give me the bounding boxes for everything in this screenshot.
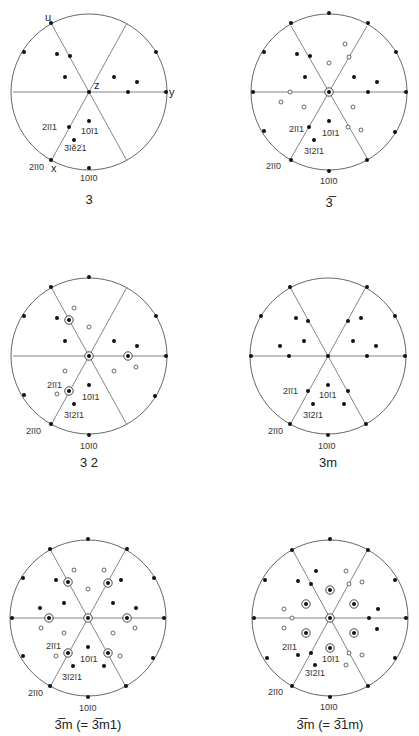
pole-upper-hemisphere bbox=[328, 537, 332, 541]
pole-upper-hemisphere bbox=[63, 75, 67, 79]
pole-upper-hemisphere bbox=[403, 354, 407, 358]
pole-label: 2īī1 bbox=[283, 386, 298, 396]
pole-upper-hemisphere bbox=[259, 314, 263, 318]
pole-upper-hemisphere bbox=[111, 601, 115, 605]
pole-upper-hemisphere bbox=[265, 656, 269, 660]
pole-lower-hemisphere bbox=[102, 568, 106, 572]
pole-lower-hemisphere bbox=[344, 569, 348, 573]
pole-upper-hemisphere bbox=[375, 80, 379, 84]
pole-upper-hemisphere bbox=[21, 654, 25, 658]
stereogram-p3: uzyx2īī110ī13īĕ2̇​12īī010ī0 bbox=[11, 11, 175, 183]
pole-lower-hemisphere bbox=[133, 626, 137, 630]
pole-lower-hemisphere bbox=[288, 90, 292, 94]
pole-label: y bbox=[169, 86, 175, 98]
pole-upper-hemisphere bbox=[304, 631, 308, 635]
pole-label: u bbox=[45, 11, 51, 23]
pole-upper-hemisphere bbox=[307, 125, 311, 129]
pole-upper-hemisphere bbox=[22, 314, 26, 318]
pole-upper-hemisphere bbox=[365, 158, 369, 162]
stereogram-p32: 2īī110ī13ī2ī12īī010ī0 bbox=[11, 275, 168, 451]
pole-upper-hemisphere bbox=[86, 645, 90, 649]
pole-lower-hemisphere bbox=[343, 42, 347, 46]
pole-lower-hemisphere bbox=[327, 61, 331, 65]
panel-caption-3bar1m: 3̅m (= 3̅1m) bbox=[297, 717, 364, 732]
pole-upper-hemisphere bbox=[49, 285, 53, 289]
pole-upper-hemisphere bbox=[376, 607, 380, 611]
pole-upper-hemisphere bbox=[54, 578, 58, 582]
pole-upper-hemisphere bbox=[287, 354, 291, 358]
pole-upper-hemisphere bbox=[364, 422, 368, 426]
pole-upper-hemisphere bbox=[289, 158, 293, 162]
pole-upper-hemisphere bbox=[162, 616, 166, 620]
pole-label: 10ī0 bbox=[79, 703, 97, 713]
pole-upper-hemisphere bbox=[288, 285, 292, 289]
pole-upper-hemisphere bbox=[152, 576, 156, 580]
pole-label: 10ī0 bbox=[320, 176, 338, 186]
pole-upper-hemisphere bbox=[125, 547, 129, 551]
pole-upper-hemisphere bbox=[263, 578, 267, 582]
pole-upper-hemisphere bbox=[251, 90, 255, 94]
pole-upper-hemisphere bbox=[352, 631, 356, 635]
pole-lower-hemisphere bbox=[282, 607, 286, 611]
pole-upper-hemisphere bbox=[87, 383, 91, 387]
pole-upper-hemisphere bbox=[366, 21, 370, 25]
pole-lower-hemisphere bbox=[134, 365, 138, 369]
pole-upper-hemisphere bbox=[346, 389, 350, 393]
pole-upper-hemisphere bbox=[86, 616, 90, 620]
pole-upper-hemisphere bbox=[87, 90, 91, 94]
pole-label: 2īī0 bbox=[268, 687, 283, 697]
pole-upper-hemisphere bbox=[306, 319, 310, 323]
pole-upper-hemisphere bbox=[63, 339, 67, 343]
panel-caption-3: 3 bbox=[85, 192, 92, 207]
pole-upper-hemisphere bbox=[48, 684, 52, 688]
pole-lower-hemisphere bbox=[360, 653, 364, 657]
pole-upper-hemisphere bbox=[87, 433, 91, 437]
pole-upper-hemisphere bbox=[366, 684, 370, 688]
pole-upper-hemisphere bbox=[359, 316, 363, 320]
pole-label: 10ī0 bbox=[80, 441, 98, 451]
pole-upper-hemisphere bbox=[296, 653, 300, 657]
pole-upper-hemisphere bbox=[313, 663, 317, 667]
pole-label: 10ī1 bbox=[81, 126, 99, 136]
pole-label: 10ī1 bbox=[82, 392, 100, 402]
pole-upper-hemisphere bbox=[312, 138, 316, 142]
pole-upper-hemisphere bbox=[393, 130, 397, 134]
pole-lower-hemisphere bbox=[359, 128, 363, 132]
pole-upper-hemisphere bbox=[327, 11, 331, 15]
pole-upper-hemisphere bbox=[327, 90, 331, 94]
pole-upper-hemisphere bbox=[367, 616, 371, 620]
pole-upper-hemisphere bbox=[393, 656, 397, 660]
pole-label: 10ī0 bbox=[318, 441, 336, 451]
pole-upper-hemisphere bbox=[106, 581, 110, 585]
pole-upper-hemisphere bbox=[86, 695, 90, 699]
pole-upper-hemisphere bbox=[164, 90, 168, 94]
pole-upper-hemisphere bbox=[38, 606, 42, 610]
pole-upper-hemisphere bbox=[366, 548, 370, 552]
pole-upper-hemisphere bbox=[311, 402, 315, 406]
pole-upper-hemisphere bbox=[393, 314, 397, 318]
pole-upper-hemisphere bbox=[67, 318, 71, 322]
pole-upper-hemisphere bbox=[153, 394, 157, 398]
pole-upper-hemisphere bbox=[394, 50, 398, 54]
pole-label: 2īī1 bbox=[46, 641, 61, 651]
pole-label: 10ī0 bbox=[320, 702, 338, 712]
pole-lower-hemisphere bbox=[72, 568, 76, 572]
panel-caption-3bar: 3̅ bbox=[325, 195, 336, 210]
pole-upper-hemisphere bbox=[278, 344, 282, 348]
pole-upper-hemisphere bbox=[66, 651, 70, 655]
pole-upper-hemisphere bbox=[86, 537, 90, 541]
pole-upper-hemisphere bbox=[10, 616, 14, 620]
pole-upper-hemisphere bbox=[303, 75, 307, 79]
pole-upper-hemisphere bbox=[326, 354, 330, 358]
panel-caption-32: 3 2 bbox=[80, 455, 98, 470]
pole-upper-hemisphere bbox=[327, 119, 331, 123]
stereographic-projections-figure: 3 3̅ 3 2 3m 3̅m (= 3̅m1) 3̅m (= 3̅1m) uz… bbox=[0, 0, 419, 736]
pole-upper-hemisphere bbox=[346, 319, 350, 323]
pole-upper-hemisphere bbox=[164, 354, 168, 358]
pole-lower-hemisphere bbox=[351, 105, 355, 109]
pole-lower-hemisphere bbox=[346, 125, 350, 129]
pole-upper-hemisphere bbox=[309, 651, 313, 655]
pole-upper-hemisphere bbox=[296, 579, 300, 583]
pole-upper-hemisphere bbox=[352, 75, 356, 79]
pole-upper-hemisphere bbox=[134, 606, 138, 610]
